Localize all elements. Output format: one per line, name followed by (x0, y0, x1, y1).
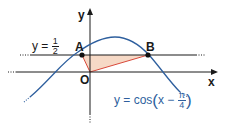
half-line-label: y = 1 2 (32, 37, 59, 56)
pi-over-4-fraction: π 4 (178, 91, 186, 110)
x-axis-label: x (208, 76, 215, 88)
curve-prefix: y = cos (114, 93, 152, 107)
half-line-prefix: y = (32, 39, 48, 53)
cosine-curve-dots-left (24, 97, 30, 102)
curve-inner: x − (158, 93, 174, 107)
origin-label: O (80, 74, 89, 86)
curve-equation: y = cos(x − π 4 ) (114, 91, 192, 110)
point-a-label: A (75, 41, 84, 53)
y-axis-label: y (78, 9, 85, 21)
point-b-label: B (146, 41, 155, 53)
y-axis-arrow-icon (87, 8, 93, 15)
half-fraction: 1 2 (52, 37, 59, 56)
